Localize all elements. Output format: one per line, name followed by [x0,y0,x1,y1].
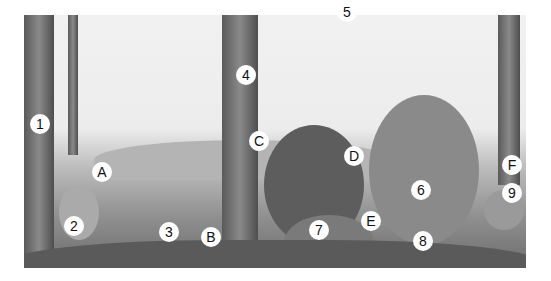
label-9: 9 [502,183,522,203]
label-6: 6 [411,180,431,200]
forest-illustration [24,15,526,268]
label-c: C [249,131,269,151]
label-f: F [502,155,522,175]
fox [369,95,479,245]
label-1: 1 [30,114,50,134]
tree-left-thin [68,15,78,155]
tree-left [24,15,54,268]
label-2: 2 [64,216,84,236]
label-3: 3 [159,222,179,242]
label-4: 4 [236,65,256,85]
label-d: D [344,146,364,166]
label-7: 7 [309,220,329,240]
label-8: 8 [413,231,433,251]
label-e: E [361,211,381,231]
label-b: B [201,227,221,247]
label-a: A [92,162,112,182]
label-5: 5 [337,2,357,22]
ground-foliage [24,240,526,268]
